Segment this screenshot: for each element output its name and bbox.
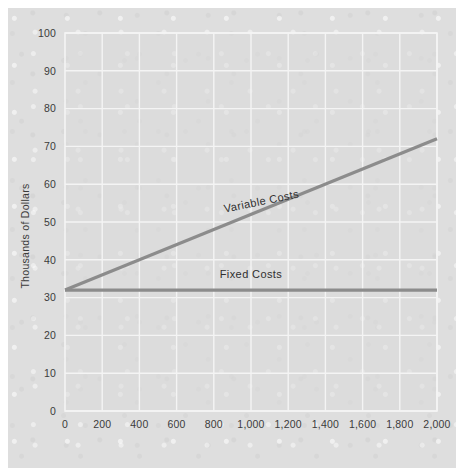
x-tick-label-1000: 1,000 <box>237 418 264 430</box>
y-tick-label-90: 90 <box>44 65 56 77</box>
x-tick-label-0: 0 <box>62 418 68 430</box>
y-tick-label-100: 100 <box>38 27 56 39</box>
y-tick-label-40: 40 <box>44 254 56 266</box>
x-tick-label-200: 200 <box>93 418 111 430</box>
y-axis-title: Thousands of Dollars <box>19 183 31 288</box>
x-tick-label-600: 600 <box>168 418 186 430</box>
y-axis-tick-labels: 0102030405060708090100 <box>38 27 56 417</box>
x-tick-label-400: 400 <box>130 418 148 430</box>
x-tick-label-1600: 1,600 <box>349 418 376 430</box>
x-tick-label-2000: 2,000 <box>423 418 450 430</box>
series-label-fixed-costs: Fixed Costs <box>220 268 283 280</box>
y-tick-label-10: 10 <box>44 367 56 379</box>
x-tick-label-1800: 1,800 <box>386 418 413 430</box>
x-tick-label-800: 800 <box>205 418 223 430</box>
y-tick-label-30: 30 <box>44 291 56 303</box>
y-tick-label-60: 60 <box>44 178 56 190</box>
y-tick-label-50: 50 <box>44 216 56 228</box>
chart-plot-svg: 0102030405060708090100 02004006008001,00… <box>0 0 464 476</box>
y-tick-label-0: 0 <box>50 405 56 417</box>
x-tick-label-1400: 1,400 <box>312 418 339 430</box>
y-tick-label-20: 20 <box>44 329 56 341</box>
cost-behavior-chart: 0102030405060708090100 02004006008001,00… <box>0 0 464 476</box>
x-tick-label-1200: 1,200 <box>275 418 302 430</box>
x-axis-tick-labels: 02004006008001,0001,2001,4001,6001,8002,… <box>62 418 451 430</box>
y-tick-label-80: 80 <box>44 102 56 114</box>
y-tick-label-70: 70 <box>44 140 56 152</box>
